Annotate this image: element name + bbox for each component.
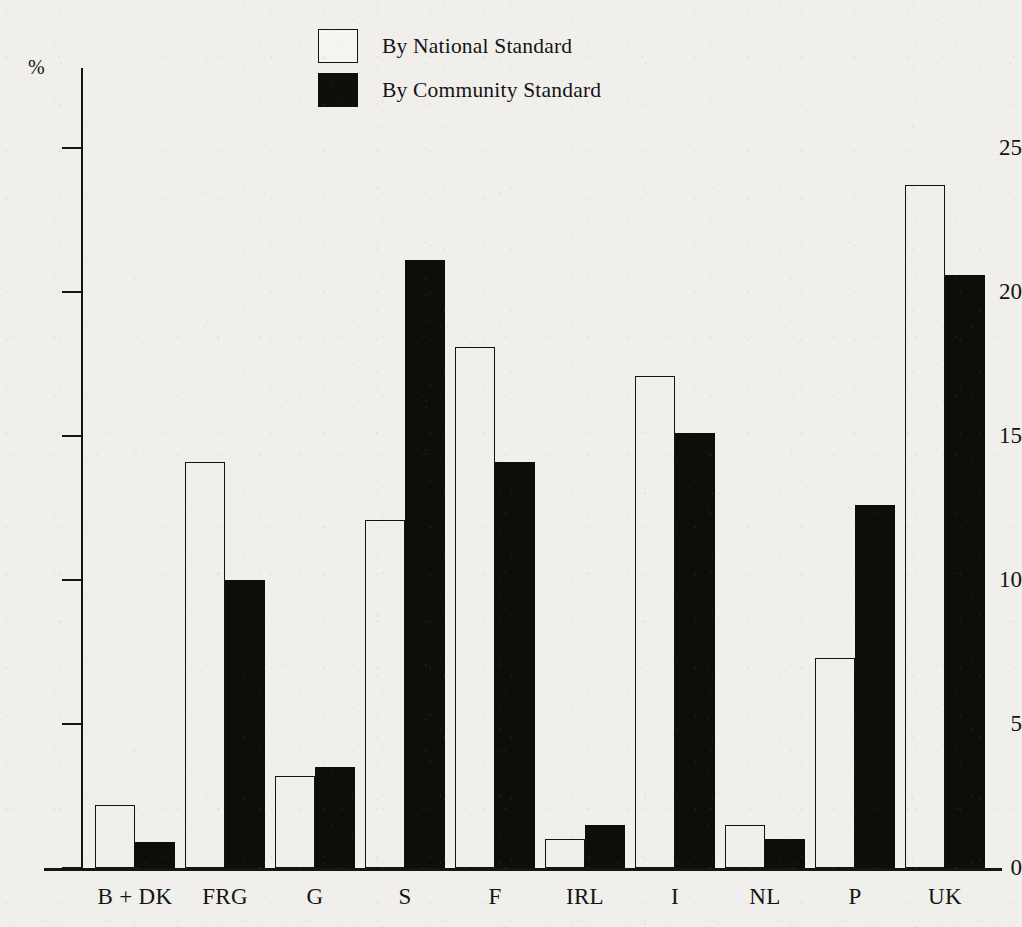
x-axis-line (44, 868, 1002, 871)
legend-item-label: By National Standard (382, 34, 572, 59)
bar-group (815, 148, 895, 868)
bar-national (95, 805, 135, 868)
legend-item-label: By Community Standard (382, 78, 601, 103)
bar-national (725, 825, 765, 868)
bar-national (185, 462, 225, 868)
legend-item: By Community Standard (318, 68, 601, 112)
y-axis-tick (62, 867, 83, 869)
bar-national (455, 347, 495, 868)
bar-group (455, 148, 535, 868)
y-axis-tick (62, 291, 83, 293)
bar-group (185, 148, 265, 868)
bar-community (315, 767, 355, 868)
y-axis-tick (62, 579, 83, 581)
legend-item: By National Standard (318, 24, 601, 68)
bar-national (365, 520, 405, 868)
chart-legend: By National StandardBy Community Standar… (318, 24, 601, 112)
filled-square-icon (318, 73, 358, 107)
bar-national (275, 776, 315, 868)
bar-national (905, 185, 945, 868)
bar-national (545, 839, 585, 868)
bar-community (585, 825, 625, 868)
bar-community (225, 580, 265, 868)
bar-national (635, 376, 675, 868)
bar-group (95, 148, 175, 868)
bar-group (635, 148, 715, 868)
bar-group (725, 148, 805, 868)
bar-group (365, 148, 445, 868)
y-axis-tick (62, 435, 83, 437)
bar-community (675, 433, 715, 868)
bar-community (855, 505, 895, 868)
bar-group (905, 148, 985, 868)
bar-community (405, 260, 445, 868)
bar-community (945, 275, 985, 868)
bar-group (275, 148, 355, 868)
y-axis-unit-label: % (28, 56, 45, 79)
bar-community (495, 462, 535, 868)
bar-chart: % By National StandardBy Community Stand… (0, 0, 1022, 927)
open-square-icon (318, 29, 358, 63)
plot-area (81, 148, 1002, 868)
y-axis-tick (62, 723, 83, 725)
bar-community (765, 839, 805, 868)
y-axis-tick (62, 147, 83, 149)
bar-community (135, 842, 175, 868)
bar-national (815, 658, 855, 868)
x-axis-category-label: UK (891, 884, 999, 910)
bar-group (545, 148, 625, 868)
